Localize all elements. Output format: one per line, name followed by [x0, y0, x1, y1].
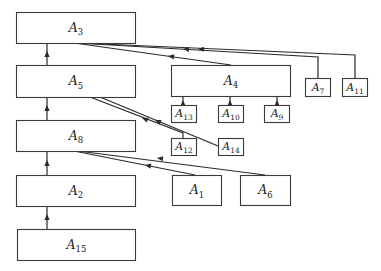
- node-label-subscript: 12: [183, 146, 193, 155]
- node-a15: A15: [18, 230, 136, 261]
- node-label-subscript: 11: [354, 87, 364, 96]
- arrowhead-icon: [44, 160, 49, 166]
- node-a11: A11: [343, 79, 368, 97]
- node-a10: A10: [219, 106, 244, 123]
- edge-a9-to-a4: [274, 96, 279, 106]
- node-label-letter: A: [270, 107, 279, 120]
- node-a5: A5: [17, 66, 136, 98]
- node-label-subscript: 8: [78, 135, 83, 145]
- node-label-letter: A: [174, 107, 183, 120]
- edge-a5-to-a3: [44, 43, 49, 65]
- node-label-subscript: 5: [78, 81, 83, 91]
- node-label-letter: A: [68, 183, 78, 198]
- node-a12: A12: [172, 139, 197, 156]
- node-a2: A2: [17, 176, 136, 207]
- edge-a10-to-a4: [227, 96, 232, 106]
- node-label-letter: A: [221, 140, 230, 153]
- node-a3: A3: [17, 13, 136, 44]
- node-label-letter: A: [68, 128, 78, 143]
- node-a14: A14: [219, 139, 244, 156]
- node-label-letter: A: [189, 182, 199, 197]
- node-a4: A4: [172, 66, 291, 97]
- arrowhead-icon: [44, 105, 49, 111]
- node-label-subscript: 9: [279, 113, 284, 122]
- node-a9: A9: [265, 106, 290, 123]
- node-label-letter: A: [345, 81, 354, 94]
- node-label-subscript: 4: [233, 80, 238, 90]
- node-label-letter: A: [174, 140, 183, 153]
- node-label-subscript: 6: [267, 190, 272, 200]
- arrowhead-icon: [198, 47, 204, 52]
- node-label-subscript: 15: [76, 244, 87, 254]
- edge-a2-to-a8: [44, 151, 49, 175]
- node-label-subscript: 13: [183, 113, 193, 122]
- arrowhead-icon: [157, 156, 163, 161]
- edge-a15-to-a2: [44, 206, 49, 229]
- node-label-letter: A: [68, 73, 78, 88]
- dependency-diagram: A3A5A8A2A15A4A7A11A13A10A9A12A14A1A6: [0, 0, 381, 271]
- node-label-subscript: 1: [199, 190, 204, 200]
- node-label-letter: A: [257, 182, 267, 197]
- node-label-letter: A: [68, 20, 78, 35]
- node-label-letter: A: [221, 107, 230, 120]
- node-label-letter: A: [223, 73, 233, 88]
- node-a6: A6: [241, 176, 291, 206]
- arrowhead-icon: [44, 214, 49, 220]
- arrowhead-icon: [142, 118, 149, 123]
- node-a7: A7: [306, 79, 331, 97]
- arrowhead-icon: [44, 51, 49, 57]
- node-a13: A13: [172, 106, 197, 123]
- node-label-subscript: 2: [78, 190, 83, 200]
- node-label-subscript: 14: [230, 146, 240, 155]
- edge-a13-to-a4: [180, 96, 185, 106]
- node-a1: A1: [173, 176, 222, 206]
- node-label-subscript: 7: [320, 87, 325, 96]
- node-label-letter: A: [66, 237, 76, 252]
- node-label-subscript: 10: [230, 113, 240, 122]
- node-a8: A8: [17, 121, 136, 152]
- node-label-subscript: 3: [78, 27, 83, 37]
- node-label-letter: A: [311, 81, 320, 94]
- edge-a8-to-a5: [44, 97, 49, 120]
- arrowhead-icon: [145, 164, 151, 169]
